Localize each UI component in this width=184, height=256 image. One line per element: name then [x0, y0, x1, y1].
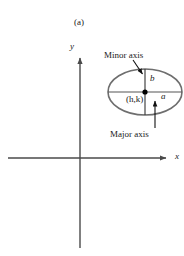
minor-axis-annotation-label: Minor axis: [104, 51, 143, 60]
x-axis-label: x: [175, 152, 179, 161]
semi-major-axis-label: a: [161, 92, 166, 101]
panel-label: (a): [74, 18, 84, 27]
y-axis-label: y: [70, 42, 74, 51]
ellipse-center-dot: [142, 89, 147, 94]
figure-canvas: [0, 0, 184, 256]
major-axis-annotation-label: Major axis: [110, 130, 149, 139]
ellipse-center-label: (h,k): [126, 95, 143, 104]
ellipse-figure: (a) y x Minor axis Major axis b a (h,k): [0, 0, 184, 256]
semi-minor-axis-label: b: [150, 74, 155, 83]
minor-axis-callout-arrow: [133, 60, 143, 74]
